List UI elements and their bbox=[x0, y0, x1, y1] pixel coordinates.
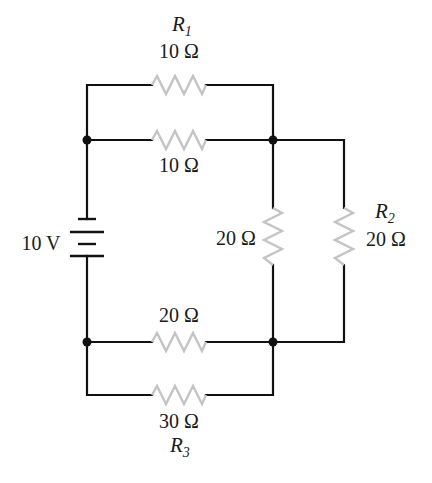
r2-value-label: 20 Ω bbox=[366, 228, 406, 250]
wire-r1-left bbox=[87, 85, 152, 140]
r3-value-label: 30 Ω bbox=[159, 410, 199, 432]
resistor-r2-icon bbox=[335, 208, 353, 265]
wire-r3-right bbox=[206, 342, 273, 395]
r1-name-label: R1 bbox=[171, 12, 192, 39]
r2-name-label: R2 bbox=[374, 199, 395, 226]
wire-r1-right bbox=[206, 85, 273, 140]
battery-label: 10 V bbox=[21, 232, 61, 254]
resistor-top-middle-icon bbox=[152, 131, 206, 149]
resistor-bottom-middle-icon bbox=[152, 333, 206, 351]
wire-r2-top bbox=[273, 140, 344, 208]
battery-icon bbox=[70, 219, 104, 256]
wire-r2-bottom bbox=[273, 265, 344, 342]
bottom-middle-value-label: 20 Ω bbox=[159, 304, 199, 326]
r1-value-label: 10 Ω bbox=[159, 40, 199, 62]
vertical-inner-value-label: 20 Ω bbox=[216, 227, 256, 249]
resistor-r3-icon bbox=[152, 386, 206, 404]
wire-r3-left bbox=[87, 342, 152, 395]
resistor-r1-icon bbox=[152, 76, 206, 94]
junction-node-bottom-right bbox=[269, 338, 278, 347]
top-middle-value-label: 10 Ω bbox=[159, 154, 199, 176]
resistor-vertical-inner-icon bbox=[264, 208, 282, 265]
junction-node-bottom-left bbox=[83, 338, 92, 347]
junction-node-top-right bbox=[269, 136, 278, 145]
r3-name-label: R3 bbox=[169, 433, 190, 460]
circuit-diagram: R1 10 Ω 10 Ω 10 V 20 Ω R2 20 Ω 20 Ω 30 Ω… bbox=[0, 0, 432, 483]
junction-node-top-left bbox=[83, 136, 92, 145]
